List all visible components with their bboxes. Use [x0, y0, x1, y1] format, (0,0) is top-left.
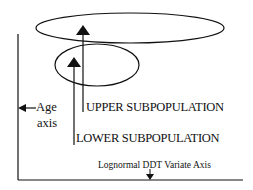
- ddt-axis-pointer-icon: [146, 174, 154, 180]
- upper-subpopulation-label: UPPER SUBPOPULATION: [86, 101, 224, 114]
- age-axis-label-line2: axis: [37, 117, 57, 130]
- upper-arrow-head-icon: [76, 25, 90, 35]
- age-axis-pointer-icon: [18, 104, 26, 112]
- age-axis-label-line1: Age: [36, 101, 57, 114]
- ddt-axis-label: Lognormal DDT Variate Axis: [98, 161, 211, 171]
- lower-arrow-head-icon: [67, 57, 81, 67]
- lower-subpopulation-label: LOWER SUBPOPULATION: [76, 132, 219, 145]
- lower-subpopulation-ellipse: [55, 44, 139, 86]
- upper-subpopulation-ellipse: [36, 13, 224, 43]
